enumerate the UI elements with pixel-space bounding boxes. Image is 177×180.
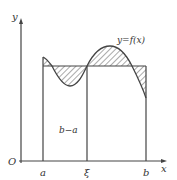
y-axis-label: y — [12, 12, 18, 22]
diagram-graphic — [0, 0, 177, 180]
mean-value-theorem-diagram: y x O a ξ b b−a y=f(x) — [0, 0, 177, 180]
x-axis-label: x — [161, 164, 167, 174]
b-label: b — [143, 168, 149, 178]
width-label: b−a — [59, 126, 78, 135]
xi-label: ξ — [84, 168, 90, 178]
function-label: y=f(x) — [117, 36, 145, 45]
a-label: a — [40, 168, 46, 178]
y-axis-arrow — [19, 18, 23, 24]
origin-label: O — [8, 157, 16, 167]
